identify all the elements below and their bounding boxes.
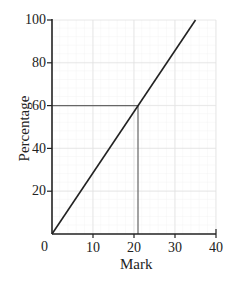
x-tick-30: 30 xyxy=(160,241,190,255)
x-tick-20: 20 xyxy=(119,241,149,255)
y-tick-100: 100 xyxy=(16,13,46,27)
x-axis-label: Mark xyxy=(120,256,153,273)
x-tick-10: 10 xyxy=(78,241,108,255)
y-axis-label: Percentage xyxy=(16,89,33,169)
x-tick-40: 40 xyxy=(201,241,231,255)
y-tick-80: 80 xyxy=(16,56,46,70)
origin-label: 0 xyxy=(41,240,48,254)
y-tick-20: 20 xyxy=(16,184,46,198)
